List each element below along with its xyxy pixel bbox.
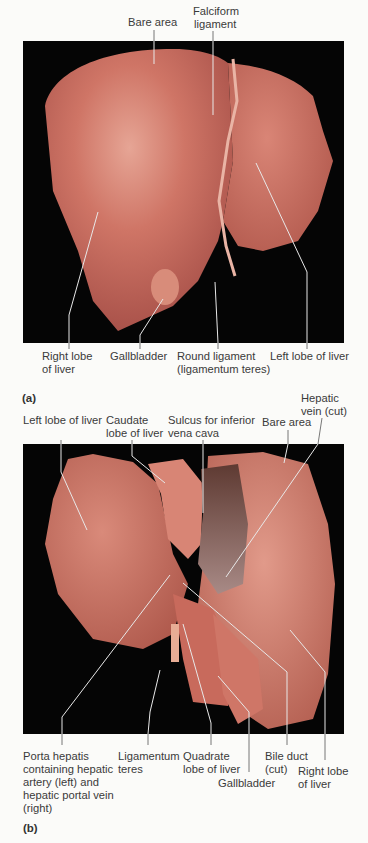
label-porta-hepatis-line3: artery (left) and bbox=[23, 776, 99, 789]
liver-posterior-illustration bbox=[23, 444, 344, 734]
label-left-lobe-b: Left lobe of liver bbox=[23, 414, 102, 427]
label-porta-hepatis-line1: Porta hepatis bbox=[23, 750, 89, 763]
liver-anterior-photo bbox=[23, 41, 344, 343]
label-right-lobe-a-line1: Right lobe bbox=[42, 350, 92, 363]
label-caudate-line1: Caudate bbox=[106, 414, 148, 427]
label-right-lobe-a-line2: of liver bbox=[42, 363, 75, 376]
label-caudate-line2: lobe of liver bbox=[106, 427, 163, 440]
panel-a-tag: (a) bbox=[22, 392, 36, 404]
liver-posterior-photo bbox=[23, 444, 344, 734]
label-falciform-ligament-line1: Falciform bbox=[193, 5, 239, 18]
label-porta-hepatis-line4: hepatic portal vein bbox=[23, 789, 114, 802]
label-sulcus-line1: Sulcus for inferior bbox=[168, 414, 255, 427]
label-sulcus-line2: vena cava bbox=[168, 427, 219, 440]
panel-b-tag: (b) bbox=[23, 822, 38, 834]
label-gallbladder-b: Gallbladder bbox=[218, 777, 275, 790]
label-quadrate-line1: Quadrate bbox=[183, 750, 230, 763]
label-ligamentum-teres-line1: Ligamentum bbox=[118, 750, 180, 763]
label-left-lobe-a: Left lobe of liver bbox=[270, 350, 349, 363]
label-right-lobe-b-line2: of liver bbox=[298, 778, 331, 791]
label-gallbladder-a: Gallbladder bbox=[110, 350, 167, 363]
liver-anterior-illustration bbox=[23, 41, 344, 343]
label-round-ligament-line1: Round ligament bbox=[177, 350, 255, 363]
label-round-ligament-line2: (ligamentum teres) bbox=[177, 363, 270, 376]
label-bare-area-b: Bare area bbox=[262, 416, 311, 429]
label-bile-duct-line1: Bile duct bbox=[265, 750, 308, 763]
label-hepatic-vein-line1: Hepatic bbox=[301, 392, 339, 405]
label-ligamentum-teres-line2: teres bbox=[118, 763, 143, 776]
label-falciform-ligament-line2: ligament bbox=[194, 18, 236, 31]
label-porta-hepatis-line5: (right) bbox=[23, 802, 52, 815]
label-quadrate-line2: lobe of liver bbox=[183, 763, 240, 776]
label-right-lobe-b-line1: Right lobe bbox=[298, 765, 348, 778]
label-porta-hepatis-line2: containing hepatic bbox=[23, 763, 113, 776]
label-hepatic-vein-line2: vein (cut) bbox=[301, 405, 347, 418]
label-bile-duct-line2: (cut) bbox=[265, 763, 287, 776]
label-bare-area-a: Bare area bbox=[128, 16, 177, 29]
